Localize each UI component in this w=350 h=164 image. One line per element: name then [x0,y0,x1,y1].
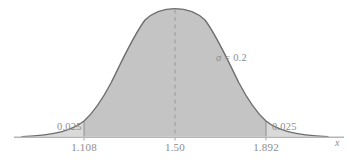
normal-distribution-chart: 0.025 0.025 σ = 0.2 1.108 1.50 1.892 x [0,0,350,164]
left-tail-area-label: 0.025 [57,122,82,133]
x-axis-variable-label: x [335,138,340,148]
x-tick-label-lower-critical: 1.108 [71,142,97,153]
sigma-equals: = [221,52,233,63]
distribution-plot [0,0,350,164]
sigma-value: 0.2 [233,52,247,63]
x-tick-label-mean: 1.50 [165,142,185,153]
sigma-annotation: σ = 0.2 [216,53,247,64]
x-tick-label-upper-critical: 1.892 [253,142,279,153]
right-tail-area-label: 0.025 [272,122,297,133]
